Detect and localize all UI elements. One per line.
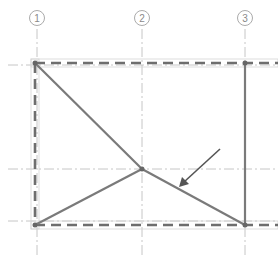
grid-bubble-2[interactable]: 2 xyxy=(135,11,150,26)
grid-label-2: 2 xyxy=(139,13,145,24)
member-diagonal-bottom-left[interactable] xyxy=(35,169,142,225)
grid-label-3: 3 xyxy=(242,13,248,24)
structural-diagram: 1 2 3 xyxy=(0,0,278,260)
grid-bubble-3[interactable]: 3 xyxy=(238,11,253,26)
member-diagonal-bottom-right[interactable] xyxy=(142,169,245,225)
node-bottom-right[interactable] xyxy=(243,223,248,228)
pointer-arrow-icon xyxy=(179,149,220,187)
node-top-right[interactable] xyxy=(243,61,248,66)
node-bottom-left[interactable] xyxy=(33,223,38,228)
beam-outlines xyxy=(31,59,278,229)
grid-label-1: 1 xyxy=(34,13,40,24)
grid-bubble-1[interactable]: 1 xyxy=(30,11,45,26)
member-diagonal-top-left[interactable] xyxy=(35,63,142,169)
grid-bubbles: 1 2 3 xyxy=(30,11,253,26)
members xyxy=(35,63,245,225)
nodes xyxy=(33,61,248,228)
dashed-beams xyxy=(35,63,278,225)
horizontal-gridlines xyxy=(8,65,278,221)
node-center[interactable] xyxy=(140,167,145,172)
node-top-left[interactable] xyxy=(33,61,38,66)
